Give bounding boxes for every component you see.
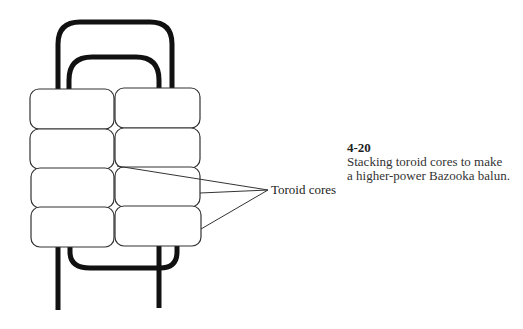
toroid-core: [115, 128, 200, 168]
figure-caption: 4-20 Stacking toroid cores to make a hig…: [347, 141, 510, 183]
toroid-core: [31, 168, 114, 208]
inner-wire-loop: [69, 57, 159, 90]
toroid-core: [115, 206, 201, 246]
toroid-core-stack: [30, 88, 201, 247]
figure-number: 4-20: [347, 141, 510, 155]
toroid-core: [115, 167, 200, 207]
toroid-core: [30, 89, 114, 129]
toroid-core: [30, 129, 114, 169]
caption-line-2: a higher-power Bazooka balun.: [347, 169, 510, 183]
caption-line-1: Stacking toroid cores to make: [347, 155, 510, 169]
toroid-core: [31, 207, 114, 247]
callout-label: Toroid cores: [271, 182, 336, 198]
toroid-core: [115, 88, 200, 128]
